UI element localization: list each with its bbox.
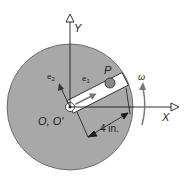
- dimension-label: 4 in.: [100, 123, 119, 134]
- rotating-disk-diagram: Y X O, O' P e1 e2 ω 4 in.: [0, 0, 184, 188]
- y-axis-label: Y: [74, 22, 82, 34]
- x-axis-label: X: [161, 111, 170, 123]
- x-axis-arrowhead-icon: [171, 103, 179, 111]
- omega-label: ω: [138, 72, 145, 82]
- origin-label: O, O': [38, 115, 64, 127]
- omega-rotation-arrow-icon: [139, 82, 146, 125]
- point-p-ball: [105, 78, 115, 88]
- point-p-label: P: [104, 64, 112, 76]
- y-axis-arrowhead-icon: [66, 14, 74, 22]
